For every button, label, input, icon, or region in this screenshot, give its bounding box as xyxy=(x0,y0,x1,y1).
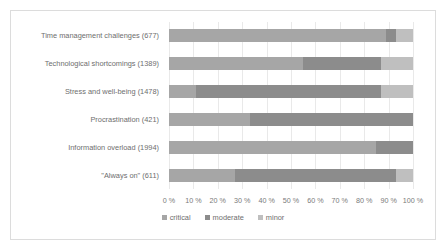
legend-swatch-icon xyxy=(162,215,167,220)
bar-segment-critical[interactable] xyxy=(169,113,250,126)
stacked-bar[interactable] xyxy=(169,29,413,42)
legend-item-minor[interactable]: minor xyxy=(258,213,284,222)
stacked-bar[interactable] xyxy=(169,85,413,98)
bar-segment-minor[interactable] xyxy=(396,29,413,42)
x-axis: 0 %10 %20 %30 %40 %50 %60 %70 %80 %90 %1… xyxy=(169,195,413,207)
bar-segment-minor[interactable] xyxy=(381,85,413,98)
legend-swatch-icon xyxy=(258,215,263,220)
category-label: Technological shortcomings (1389) xyxy=(0,57,159,70)
x-tick-label: 50 % xyxy=(283,195,299,207)
stacked-bar[interactable] xyxy=(169,169,413,182)
x-tick-label: 0 % xyxy=(163,195,175,207)
gridline xyxy=(413,22,414,189)
bar-row xyxy=(169,57,413,70)
category-label: Procrastination (421) xyxy=(0,113,159,126)
legend-label: critical xyxy=(170,213,191,222)
category-label: Stress and well-being (1478) xyxy=(0,85,159,98)
bar-segment-moderate[interactable] xyxy=(250,113,413,126)
bar-segment-minor[interactable] xyxy=(396,169,413,182)
bar-segment-critical[interactable] xyxy=(169,169,235,182)
category-label: Information overload (1994) xyxy=(0,141,159,154)
x-tick-label: 60 % xyxy=(307,195,323,207)
bar-segment-moderate[interactable] xyxy=(386,29,396,42)
bar-segment-moderate[interactable] xyxy=(376,141,413,154)
bar-segment-critical[interactable] xyxy=(169,85,196,98)
bar-segment-moderate[interactable] xyxy=(235,169,396,182)
x-tick-label: 70 % xyxy=(332,195,348,207)
x-tick-label: 30 % xyxy=(234,195,250,207)
x-tick-label: 100 % xyxy=(403,195,423,207)
plot-area xyxy=(169,22,413,189)
legend-swatch-icon xyxy=(205,215,210,220)
x-tick-label: 40 % xyxy=(258,195,274,207)
x-tick-label: 90 % xyxy=(380,195,396,207)
chart-legend: criticalmoderateminor xyxy=(11,213,435,222)
category-label: Time management challenges (677) xyxy=(0,29,159,42)
stacked-bar[interactable] xyxy=(169,57,413,70)
legend-item-critical[interactable]: critical xyxy=(162,213,191,222)
bar-row xyxy=(169,113,413,126)
bar-row xyxy=(169,169,413,182)
bar-row xyxy=(169,29,413,42)
bar-rows xyxy=(169,22,413,189)
bar-segment-critical[interactable] xyxy=(169,141,376,154)
stacked-bar[interactable] xyxy=(169,141,413,154)
x-tick-label: 20 % xyxy=(210,195,226,207)
bar-segment-moderate[interactable] xyxy=(196,85,381,98)
legend-label: minor xyxy=(266,213,284,222)
bar-segment-moderate[interactable] xyxy=(303,57,381,70)
bar-row xyxy=(169,85,413,98)
legend-item-moderate[interactable]: moderate xyxy=(205,213,244,222)
stacked-bar[interactable] xyxy=(169,113,413,126)
x-tick-label: 80 % xyxy=(356,195,372,207)
bar-segment-critical[interactable] xyxy=(169,29,386,42)
category-label: "Always on" (611) xyxy=(0,169,159,182)
bar-segment-minor[interactable] xyxy=(381,57,413,70)
x-tick-label: 10 % xyxy=(185,195,201,207)
bar-row xyxy=(169,141,413,154)
legend-label: moderate xyxy=(213,213,244,222)
chart-frame: Time management challenges (677)Technolo… xyxy=(10,10,436,240)
bar-segment-critical[interactable] xyxy=(169,57,303,70)
